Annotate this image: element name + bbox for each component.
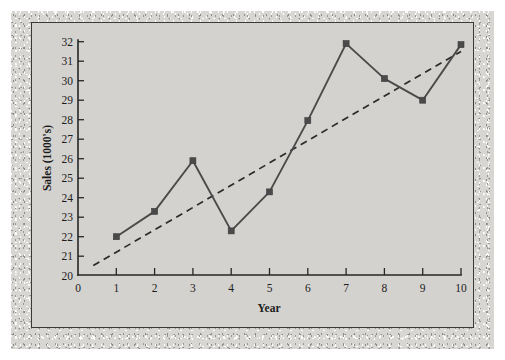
x-tick-label: 10	[455, 282, 467, 294]
data-point-marker	[228, 228, 234, 234]
y-tick-label: 25	[62, 172, 74, 184]
y-axis-tick-labels: 32 31 30 29 28 27 26 25 24 23 22 21 20	[62, 36, 74, 282]
plot-frame: 32 31 30 29 28 27 26 25 24 23 22 21 20	[31, 22, 474, 328]
sales-series-line	[116, 44, 461, 237]
x-tick-label: 2	[152, 282, 158, 294]
data-point-marker	[267, 189, 273, 195]
x-tick-label: 9	[420, 282, 426, 294]
y-tick-label: 24	[62, 192, 74, 204]
y-tick-label: 31	[62, 55, 74, 67]
y-tick-label: 20	[62, 270, 74, 282]
y-tick-label: 28	[62, 114, 74, 126]
data-point-marker	[458, 42, 464, 48]
y-axis-ticks	[78, 42, 84, 257]
x-tick-label: 4	[228, 282, 234, 294]
y-tick-label: 23	[62, 211, 74, 223]
x-tick-label: 3	[190, 282, 196, 294]
data-point-marker	[305, 118, 311, 124]
y-tick-label: 30	[62, 75, 74, 87]
sales-series-markers	[113, 41, 464, 240]
x-axis-tick-labels: 0 1 2 3 4 5 6 7 8 9 10	[75, 282, 467, 294]
y-tick-label: 22	[62, 231, 74, 243]
y-tick-label: 32	[62, 36, 74, 48]
x-tick-label: 1	[113, 282, 119, 294]
figure-root: 32 31 30 29 28 27 26 25 24 23 22 21 20	[0, 0, 505, 360]
data-point-marker	[420, 97, 426, 103]
data-point-marker	[343, 41, 349, 47]
data-point-marker	[113, 234, 119, 240]
x-tick-label: 7	[343, 282, 349, 294]
y-tick-label: 21	[62, 250, 74, 262]
x-axis-ticks	[116, 268, 461, 275]
y-tick-label: 29	[62, 94, 74, 106]
x-axis-title: Year	[258, 302, 281, 314]
y-axis-title: Sales (1000's)	[41, 125, 54, 191]
x-tick-label: 0	[75, 282, 81, 294]
trend-line	[93, 51, 461, 265]
x-tick-label: 6	[305, 282, 311, 294]
y-tick-label: 26	[62, 153, 74, 165]
data-point-marker	[152, 208, 158, 214]
line-chart: 32 31 30 29 28 27 26 25 24 23 22 21 20	[32, 23, 475, 329]
data-point-marker	[190, 158, 196, 164]
data-point-marker	[381, 76, 387, 82]
x-tick-label: 5	[267, 282, 273, 294]
y-tick-label: 27	[62, 133, 74, 145]
x-tick-label: 8	[382, 282, 388, 294]
